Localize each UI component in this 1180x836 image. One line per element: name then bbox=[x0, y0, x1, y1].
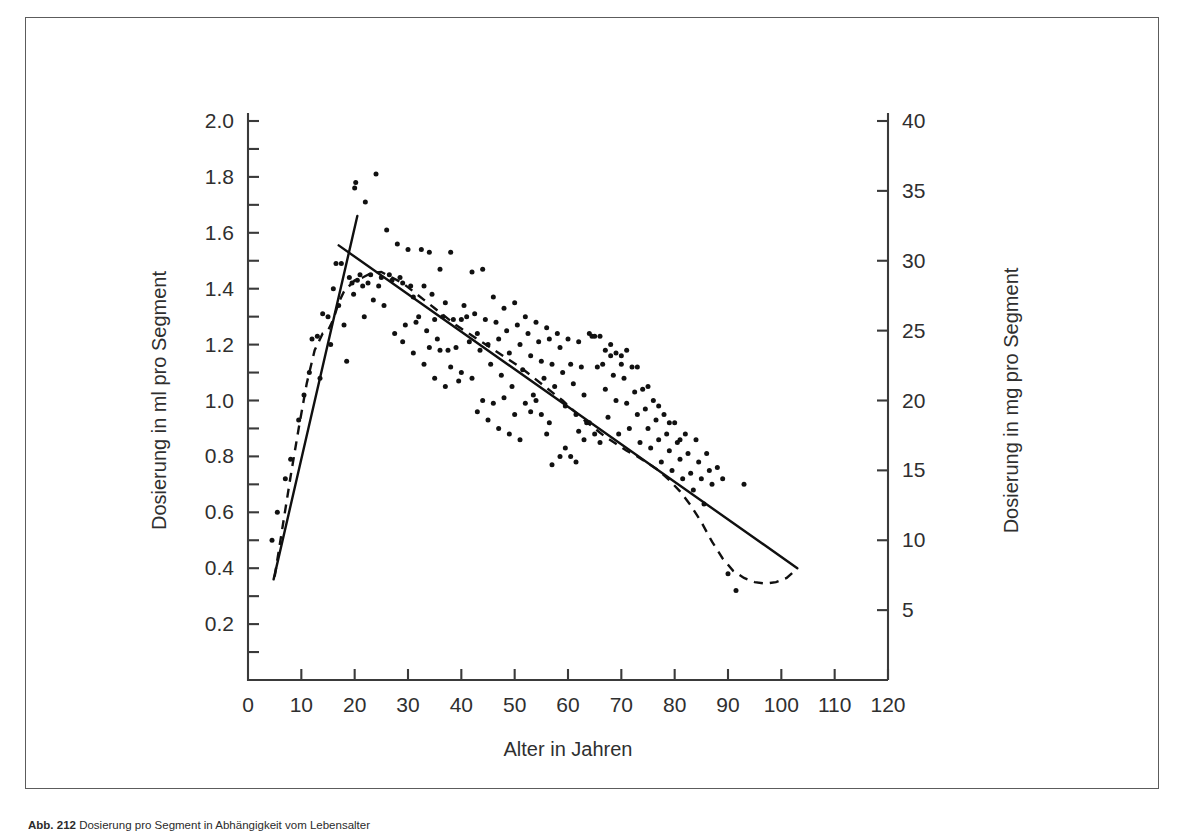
data-point bbox=[611, 373, 616, 378]
data-point bbox=[528, 353, 533, 358]
data-point bbox=[352, 186, 357, 191]
y-tick-label: 0.6 bbox=[205, 500, 234, 523]
data-point bbox=[494, 320, 499, 325]
data-point bbox=[571, 381, 576, 386]
data-point bbox=[371, 297, 376, 302]
data-point bbox=[518, 437, 523, 442]
data-point bbox=[598, 334, 603, 339]
data-point bbox=[491, 401, 496, 406]
data-point bbox=[347, 275, 352, 280]
data-point bbox=[398, 275, 403, 280]
data-point bbox=[707, 468, 712, 473]
data-point bbox=[579, 364, 584, 369]
data-point bbox=[355, 278, 360, 283]
data-point bbox=[670, 468, 675, 473]
data-point bbox=[704, 451, 709, 456]
data-point bbox=[574, 459, 579, 464]
data-point bbox=[459, 370, 464, 375]
data-point bbox=[360, 283, 365, 288]
data-point bbox=[502, 306, 507, 311]
data-point bbox=[710, 482, 715, 487]
data-point bbox=[694, 437, 699, 442]
data-point bbox=[270, 538, 275, 543]
data-point bbox=[387, 272, 392, 277]
y-tick-right-label: 5 bbox=[902, 598, 914, 621]
data-point bbox=[523, 401, 528, 406]
x-tick-label: 70 bbox=[610, 693, 633, 716]
data-point bbox=[459, 317, 464, 322]
data-point bbox=[550, 362, 555, 367]
data-point bbox=[656, 404, 661, 409]
data-point bbox=[435, 337, 440, 342]
y-tick-label: 0.4 bbox=[205, 556, 235, 579]
data-point bbox=[462, 303, 467, 308]
data-point bbox=[518, 342, 523, 347]
scatter-point-group bbox=[270, 172, 747, 593]
y-axis-title-left: Dosierung in ml pro Segment bbox=[148, 271, 170, 530]
data-point bbox=[654, 418, 659, 423]
data-point bbox=[496, 426, 501, 431]
figure-caption-text: Dosierung pro Segment in Abhängigkeit vo… bbox=[79, 819, 370, 831]
y-tick-label: 0.2 bbox=[205, 612, 234, 635]
data-point bbox=[646, 384, 651, 389]
data-point bbox=[568, 454, 573, 459]
figure-root: 0.20.40.60.81.01.21.41.61.82.05101520253… bbox=[0, 0, 1180, 836]
y-tick-right-label: 40 bbox=[902, 109, 925, 132]
data-point bbox=[470, 269, 475, 274]
x-tick-label: 90 bbox=[716, 693, 739, 716]
data-point bbox=[544, 325, 549, 330]
data-point bbox=[432, 376, 437, 381]
data-point bbox=[667, 448, 672, 453]
data-point bbox=[443, 384, 448, 389]
data-point bbox=[422, 362, 427, 367]
data-point bbox=[622, 376, 627, 381]
data-point bbox=[507, 432, 512, 437]
data-point bbox=[504, 328, 509, 333]
data-point bbox=[486, 418, 491, 423]
x-tick-label: 110 bbox=[818, 693, 851, 716]
y-tick-label: 1.0 bbox=[205, 389, 234, 412]
data-point bbox=[446, 348, 451, 353]
x-tick-label: 100 bbox=[764, 693, 799, 716]
y-tick-label: 1.6 bbox=[205, 221, 234, 244]
data-point bbox=[592, 334, 597, 339]
data-point bbox=[275, 510, 280, 515]
data-point bbox=[526, 331, 531, 336]
data-point bbox=[582, 437, 587, 442]
data-point bbox=[475, 331, 480, 336]
data-point bbox=[491, 295, 496, 300]
data-point bbox=[480, 398, 485, 403]
data-point bbox=[630, 364, 635, 369]
y-tick-right-label: 30 bbox=[902, 249, 925, 272]
x-axis-title: Alter in Jahren bbox=[504, 738, 633, 760]
data-point bbox=[558, 345, 563, 350]
data-point bbox=[483, 317, 488, 322]
data-point bbox=[558, 454, 563, 459]
left-and-bottom-axis-spine bbox=[248, 113, 888, 680]
data-point bbox=[643, 406, 648, 411]
data-point bbox=[672, 420, 677, 425]
data-point bbox=[419, 247, 424, 252]
data-point bbox=[635, 364, 640, 369]
data-point bbox=[515, 323, 520, 328]
data-point bbox=[606, 415, 611, 420]
y-tick-right-label: 35 bbox=[902, 179, 925, 202]
data-point bbox=[542, 376, 547, 381]
data-point bbox=[680, 476, 685, 481]
data-point bbox=[334, 261, 339, 266]
y-tick-label: 0.8 bbox=[205, 444, 234, 467]
data-point bbox=[592, 432, 597, 437]
y-tick-label: 1.4 bbox=[205, 277, 235, 300]
data-point bbox=[283, 476, 288, 481]
x-tick-label: 30 bbox=[396, 693, 419, 716]
x-tick-label: 120 bbox=[870, 693, 905, 716]
data-point bbox=[374, 172, 379, 177]
data-point bbox=[534, 398, 539, 403]
data-point bbox=[640, 387, 645, 392]
data-point bbox=[411, 350, 416, 355]
data-point bbox=[635, 412, 640, 417]
data-point bbox=[531, 392, 536, 397]
data-point bbox=[547, 420, 552, 425]
data-point bbox=[563, 446, 568, 451]
data-point bbox=[720, 476, 725, 481]
